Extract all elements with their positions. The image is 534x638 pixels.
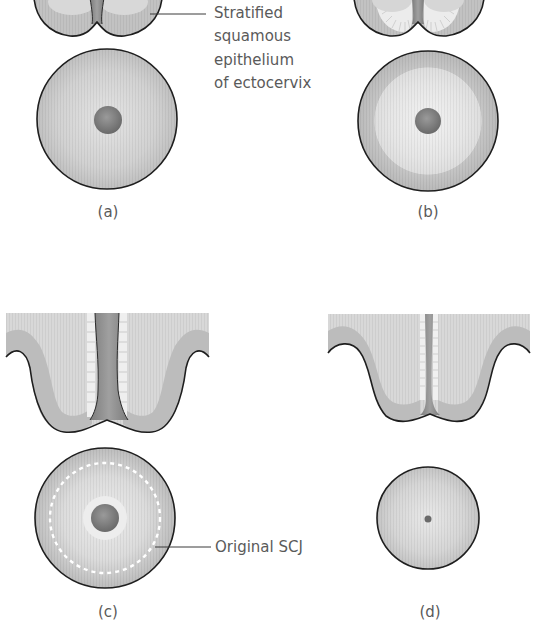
panel-a-face: [37, 49, 177, 189]
callout-line-4: of ectocervix: [214, 72, 311, 95]
panel-a: [34, 0, 206, 189]
original-scj-callout: Original SCJ: [215, 536, 303, 559]
panel-b: [354, 0, 498, 191]
panel-label-b: (b): [408, 203, 448, 221]
callout-line-3: epithelium: [214, 49, 311, 72]
panel-label-c: (c): [88, 603, 128, 621]
panel-b-section: [354, 0, 484, 36]
panel-label-d: (d): [410, 603, 450, 621]
panel-c-section: [6, 313, 209, 432]
panel-c-face: [35, 448, 211, 588]
callout-line-2: squamous: [214, 25, 311, 48]
pinpoint-os: [425, 516, 432, 523]
panel-a-section: [34, 0, 206, 36]
stratified-epithelium-callout: Stratified squamous epithelium of ectoce…: [214, 2, 311, 95]
panel-d: [328, 314, 530, 569]
panel-d-face: [377, 467, 479, 569]
panel-d-section: [328, 314, 530, 422]
panel-label-a: (a): [88, 203, 128, 221]
external-os: [94, 106, 122, 134]
callout-line-1: Stratified: [214, 2, 311, 25]
external-os: [91, 504, 119, 532]
external-os: [415, 108, 441, 134]
panel-b-face: [358, 51, 498, 191]
panel-c: [6, 313, 211, 588]
